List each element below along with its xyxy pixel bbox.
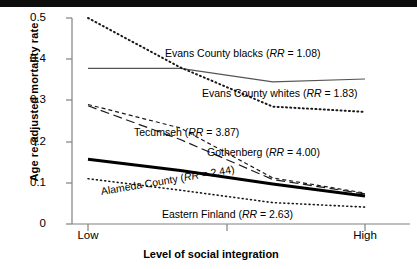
- annotation-gothenberg: Gothenberg (RR = 4.00): [207, 147, 320, 158]
- series-line-evans-county-blacks: [88, 68, 365, 82]
- chart-figure: Age re-adjusted mortality rate 0.5 0.4 0…: [0, 0, 417, 269]
- annotation-evans-county-blacks: Evans County blacks (RR = 1.08): [165, 48, 321, 59]
- annotation-evans-county-whites: Evans County whites (RR = 1.83): [202, 88, 358, 99]
- annotation-eastern-finland: Eastern Finland (RR = 2.63): [162, 209, 293, 220]
- annotation-tecumseh: Tecumseh (RR = 3.87): [134, 127, 239, 138]
